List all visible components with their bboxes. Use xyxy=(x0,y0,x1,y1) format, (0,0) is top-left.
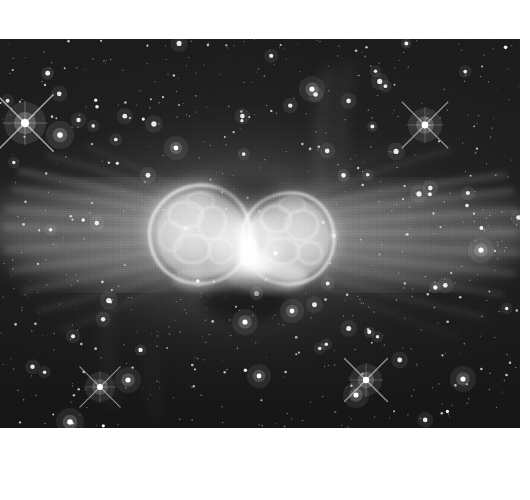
ant-nebula-image xyxy=(0,39,520,428)
plate-grain-texture xyxy=(0,39,520,428)
page-root xyxy=(0,0,530,500)
